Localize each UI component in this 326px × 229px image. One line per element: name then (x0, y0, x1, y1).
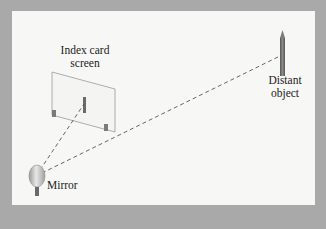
tower-top (280, 30, 285, 38)
mirror-stand (35, 187, 39, 196)
optics-diagram (0, 0, 326, 229)
index-card-screen (52, 72, 115, 132)
index-card-label: Index card screen (52, 44, 118, 70)
mirror (29, 165, 45, 196)
distant-object-label-line2: object (262, 87, 308, 100)
distant-object-label: Distant object (262, 74, 308, 100)
distant-object (280, 30, 285, 76)
mirror-label: Mirror (47, 179, 78, 192)
card-foot-right (104, 124, 108, 131)
index-card-label-line1: Index card (52, 44, 118, 57)
mirror-glass (29, 165, 45, 187)
distant-object-label-line1: Distant (262, 74, 308, 87)
index-card-label-line2: screen (52, 57, 118, 70)
tower-body (280, 38, 285, 76)
figure-frame: Index card screen Distant object Mirror (0, 0, 326, 229)
card-foot-left (52, 110, 56, 117)
